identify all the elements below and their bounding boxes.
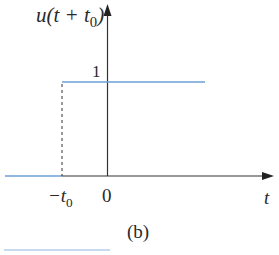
y-axis-label: u(t + t0) — [36, 3, 104, 31]
tick-zero-label: 0 — [102, 185, 112, 207]
x-axis-label: t — [264, 187, 269, 209]
tick-neg-t0-label: −t0 — [48, 185, 73, 211]
level-one-label: 1 — [92, 62, 101, 82]
x-axis-arrow-icon — [262, 172, 274, 180]
step-function-plot — [0, 0, 279, 255]
figure-caption: (b) — [127, 221, 149, 243]
y-axis-arrow-icon — [104, 4, 112, 16]
